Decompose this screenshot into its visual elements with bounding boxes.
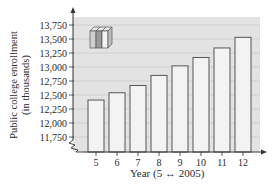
y-axis-label-container: Public college enrollment (in thousands) xyxy=(2,10,38,160)
y-tick-label: 12,000 xyxy=(40,118,68,129)
x-axis-arrow-icon xyxy=(261,150,267,155)
y-axis-arrow-icon xyxy=(71,7,76,13)
y-axis-label: Public college enrollment (in thousands) xyxy=(8,31,32,139)
bar-12 xyxy=(235,37,251,152)
chart: 11,75012,00012,25012,50012,75013,00013,2… xyxy=(0,0,273,194)
y-tick-label: 13,750 xyxy=(40,20,68,31)
bar-9 xyxy=(172,66,188,152)
y-tick-label: 13,500 xyxy=(40,34,68,45)
y-tick-label: 13,000 xyxy=(40,62,68,73)
y-tick-label: 12,250 xyxy=(40,104,68,115)
x-tick-label: 12 xyxy=(238,157,248,168)
books-icon xyxy=(90,27,112,48)
bar-8 xyxy=(151,75,167,152)
bar-6 xyxy=(109,93,125,152)
x-tick-label: 5 xyxy=(94,157,99,168)
plot-area: 11,75012,00012,25012,50012,75013,00013,2… xyxy=(0,0,273,194)
bar-5 xyxy=(88,100,104,152)
y-axis-label-line-2: (in thousands) xyxy=(20,31,32,139)
y-tick-label: 12,750 xyxy=(40,76,68,87)
y-axis-label-line-1: Public college enrollment xyxy=(8,31,20,139)
x-tick-label: 11 xyxy=(217,157,227,168)
x-axis-label: Year (5 ↔ 2005) xyxy=(130,167,204,179)
y-tick-label: 13,250 xyxy=(40,48,68,59)
y-tick-label: 12,500 xyxy=(40,90,68,101)
bar-7 xyxy=(130,85,146,152)
y-tick-label: 11,750 xyxy=(40,132,67,143)
x-tick-label: 6 xyxy=(115,157,120,168)
bar-11 xyxy=(214,48,230,152)
bar-10 xyxy=(193,57,209,152)
